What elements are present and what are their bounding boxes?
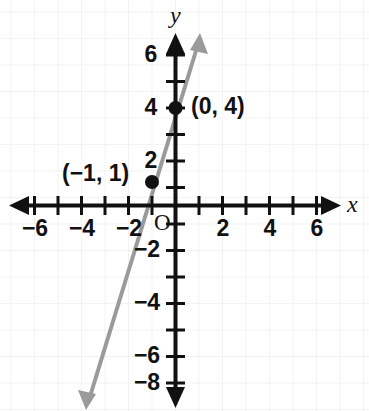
point-annotation-neg1-1: (−1, 1) [62, 162, 129, 185]
y-tick-label-neg4: −4 [133, 291, 161, 314]
y-tick-label-pos4: 4 [141, 96, 161, 119]
x-tick-label-neg6: −6 [21, 217, 49, 240]
point-marker-0-4 [169, 101, 183, 115]
y-tick-label-neg8: −8 [133, 371, 161, 394]
y-tick-label-neg6: −6 [133, 344, 161, 367]
y-axis-label: y [170, 3, 181, 27]
point-annotation-0-4: (0, 4) [191, 95, 245, 118]
x-tick-label-pos2: 2 [213, 217, 233, 240]
origin-label: O [154, 211, 171, 234]
coordinate-plane-figure: x y O −6 −4 −2 2 4 6 6 4 2 −2 −4 −6 −8 (… [0, 0, 369, 411]
y-tick-label-neg2: −2 [133, 238, 161, 261]
x-axis-label: x [347, 192, 358, 216]
coordinate-plane-svg [0, 0, 369, 411]
x-tick-label-neg4: −4 [68, 217, 96, 240]
y-tick-label-pos2: 2 [141, 149, 161, 172]
y-tick-label-pos6: 6 [141, 43, 161, 66]
x-tick-label-pos4: 4 [260, 217, 280, 240]
point-marker-neg1-1 [145, 175, 159, 189]
x-tick-label-pos6: 6 [307, 217, 327, 240]
